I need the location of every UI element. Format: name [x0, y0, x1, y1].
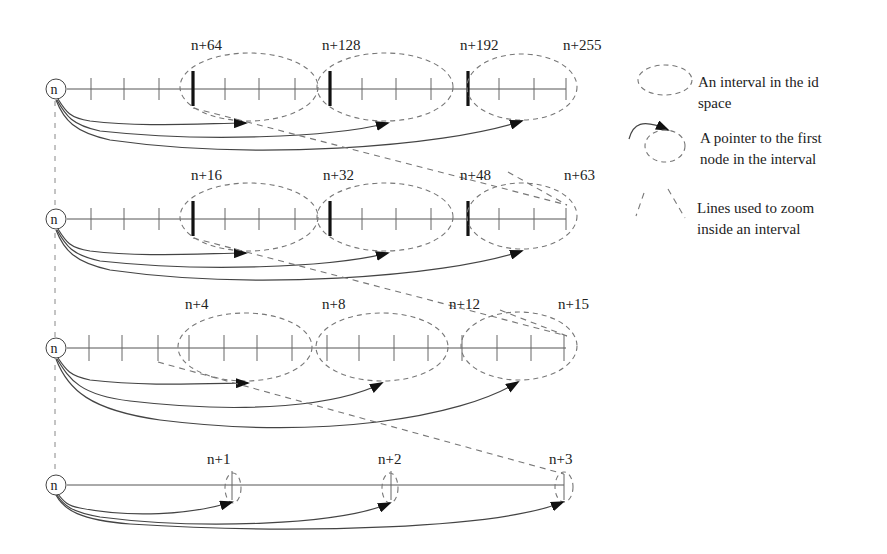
row-1-interval-2 [317, 53, 453, 121]
row-4-pointer-3 [56, 495, 563, 529]
row-1: n+64 n+128 n+192 n+255 n [46, 37, 601, 150]
row-3: n+4 n+8 n+12 n+15 n [46, 296, 589, 428]
svg-text:n: n [51, 212, 58, 227]
row-3-interval-3 [461, 312, 577, 380]
row-1-interval-1 [180, 53, 318, 121]
row-1-interval-3 [467, 54, 577, 120]
zoom-line-row1-to-row2 [193, 108, 567, 205]
legend-item-zoom-lines: Lines used to zoom inside an interval [636, 189, 814, 237]
svg-text:space: space [698, 95, 732, 111]
row-3-pointer-1 [58, 358, 248, 384]
svg-text:A pointer to the first: A pointer to the first [700, 130, 822, 146]
row-2-interval-2 [317, 183, 453, 251]
row-2-interval-1 [180, 183, 318, 251]
zoom-line-row1-to-row2-b [508, 172, 567, 205]
row-1-label-2: n+128 [322, 37, 360, 53]
row-1-pointer-3 [56, 100, 522, 150]
row-2-pointer-3 [56, 230, 522, 280]
row-4-label-1: n+1 [207, 451, 230, 467]
row-1-pointer-1 [58, 99, 246, 125]
row-1-node: n [46, 79, 66, 99]
row-2-node: n [46, 209, 66, 229]
dashed-ellipse-icon [638, 65, 692, 95]
svg-text:Lines used to zoom: Lines used to zoom [697, 200, 814, 216]
row-3-label-3: n+12 [449, 296, 480, 312]
id-space-diagram: n+64 n+128 n+192 n+255 n [0, 0, 887, 554]
row-4-pointer-2 [57, 495, 390, 524]
row-2: n+16 n+32 n+48 n+63 n [46, 167, 595, 280]
row-4-interval-2 [382, 473, 398, 503]
row-3-node: n [46, 338, 66, 358]
row-2-label-3: n+48 [460, 167, 491, 183]
row-3-label-1: n+4 [185, 296, 209, 312]
svg-text:n: n [51, 478, 58, 493]
row-2-label-4: n+63 [564, 167, 595, 183]
row-1-label-4: n+255 [563, 37, 601, 53]
zoom-lines-icon [636, 193, 644, 216]
row-2-label-2: n+32 [323, 167, 354, 183]
pointer-target-ellipse-icon [645, 130, 685, 162]
row-1-label-1: n+64 [191, 37, 222, 53]
row-3-label-4: n+15 [558, 296, 589, 312]
row-4-node: n [46, 475, 66, 495]
svg-text:n: n [51, 82, 58, 97]
svg-text:inside an interval: inside an interval [697, 221, 800, 237]
legend-item-interval: An interval in the id space [638, 65, 819, 111]
row-2-label-1: n+16 [191, 167, 222, 183]
row-4-pointer-1 [58, 494, 232, 514]
row-2-pointer-1 [58, 229, 246, 255]
svg-text:n: n [51, 341, 58, 356]
zoom-line-row2-to-row3 [193, 238, 567, 336]
row-4-interval-1 [225, 473, 241, 503]
zoom-line-row2-to-row3-b [500, 310, 567, 336]
legend: An interval in the id space A pointer to… [629, 65, 822, 237]
row-3-label-2: n+8 [322, 296, 345, 312]
row-4-label-2: n+2 [378, 451, 401, 467]
svg-text:node in the interval: node in the interval [700, 151, 816, 167]
row-1-label-3: n+192 [460, 37, 498, 53]
row-4-label-3: n+3 [549, 451, 572, 467]
row-4: n+1 n+2 n+3 n [46, 451, 573, 529]
row-3-pointer-3 [56, 359, 518, 428]
svg-text:An interval in the id: An interval in the id [698, 74, 819, 90]
legend-item-pointer: A pointer to the first node in the inter… [629, 124, 822, 167]
row-2-interval-3 [467, 183, 577, 249]
